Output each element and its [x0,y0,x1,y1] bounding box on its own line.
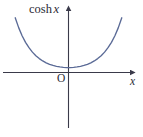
curve-label-variable: x [52,2,59,16]
curve-label-prefix: cosh [29,2,52,16]
plot-canvas [0,0,143,137]
origin-label: O [57,73,65,85]
cosh-x-figure: coshx O x [0,0,143,137]
x-axis-label: x [130,76,135,88]
y-axis-curve-label: coshx [29,3,59,16]
